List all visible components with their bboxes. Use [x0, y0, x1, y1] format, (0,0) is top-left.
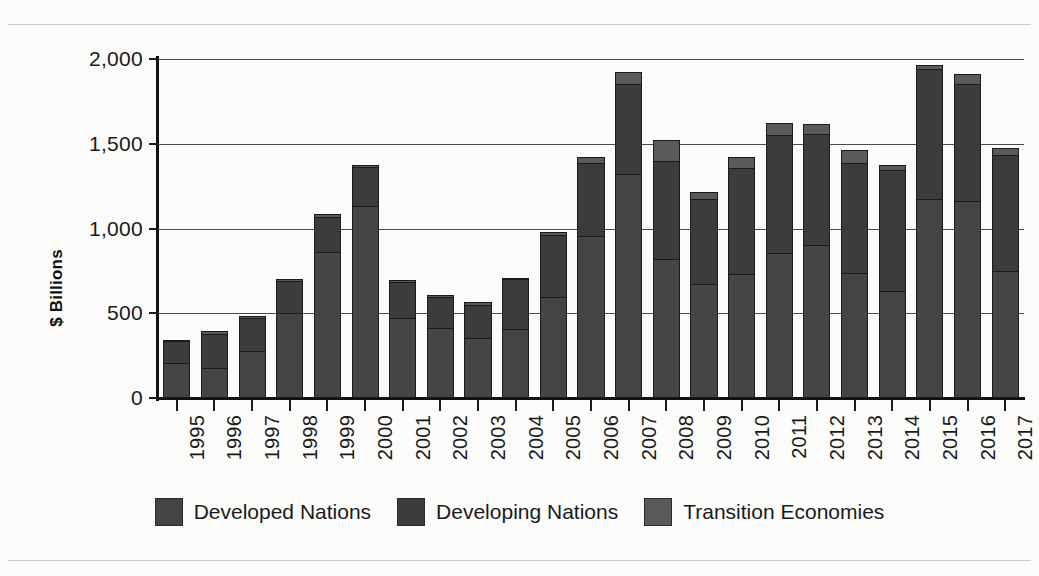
bar-segment	[653, 259, 680, 398]
x-axis-tick-label: 2001	[412, 415, 435, 460]
bar-stack	[954, 74, 981, 398]
bar-stack	[615, 72, 642, 398]
x-axis-tick-mark	[929, 400, 931, 411]
x-axis-tick-label: 2013	[864, 415, 887, 460]
bar-stack	[653, 140, 680, 398]
bar-stack	[879, 165, 906, 398]
legend-swatch	[155, 498, 183, 526]
bar-segment	[803, 245, 830, 398]
x-axis-tick-label: 2011	[788, 415, 811, 459]
x-axis-tick-label: 2008	[675, 415, 698, 460]
y-axis-tick: 0	[131, 386, 158, 410]
y-axis-tick: 2,000	[89, 47, 158, 71]
legend-swatch	[644, 498, 672, 526]
bar-segment	[201, 334, 228, 368]
bar-stack	[766, 123, 793, 398]
bar-segment	[690, 199, 717, 285]
x-axis-tick-mark	[967, 400, 969, 411]
bar-segment	[615, 84, 642, 174]
x-axis-tick-label: 1995	[186, 415, 209, 460]
x-axis-tick-mark	[176, 400, 178, 411]
bar-segment	[728, 157, 755, 168]
x-axis-tick-label: 2000	[374, 415, 397, 460]
bar-segment	[992, 148, 1019, 155]
y-axis-tick-label: 1,000	[89, 217, 149, 241]
bar-segment	[389, 318, 416, 398]
bar-stack	[201, 331, 228, 398]
x-axis-tick-mark	[289, 400, 291, 411]
legend-label: Transition Economies	[683, 500, 884, 524]
x-axis-tick-label: 2016	[977, 415, 1000, 460]
legend-swatch	[397, 498, 425, 526]
y-axis-tick-mark	[149, 312, 158, 314]
legend-item[interactable]: Transition Economies	[644, 498, 884, 526]
x-axis-tick-mark	[854, 400, 856, 411]
bar-segment	[352, 206, 379, 398]
bar-segment	[690, 284, 717, 398]
bar-segment	[314, 217, 341, 253]
bar-segment	[954, 74, 981, 84]
bar-stack	[992, 148, 1019, 398]
x-axis-tick-label: 2017	[1014, 415, 1037, 460]
bar-stack	[841, 150, 868, 398]
legend-item[interactable]: Developed Nations	[155, 498, 371, 526]
x-axis-tick-mark	[439, 400, 441, 411]
x-axis-tick-mark	[213, 400, 215, 411]
bar-stack	[502, 278, 529, 398]
y-axis-tick: 1,500	[89, 132, 158, 156]
x-axis-tick-label: 1998	[299, 415, 322, 460]
bar-stack	[577, 157, 604, 399]
x-axis-tick-label: 2010	[751, 415, 774, 460]
bar-stack	[540, 232, 567, 398]
x-axis-tick-mark	[891, 400, 893, 411]
bar-stack	[916, 65, 943, 398]
legend-item[interactable]: Developing Nations	[397, 498, 618, 526]
bar-segment	[916, 199, 943, 398]
bar-segment	[352, 167, 379, 207]
x-axis-tick-mark	[477, 400, 479, 411]
x-axis-tick-mark	[778, 400, 780, 411]
bar-segment	[841, 163, 868, 273]
x-axis-tick-mark	[326, 400, 328, 411]
x-axis-tick-mark	[1004, 400, 1006, 411]
top-divider-rule	[8, 24, 1031, 25]
bar-segment	[464, 305, 491, 338]
legend-label: Developing Nations	[436, 500, 618, 524]
bottom-divider-rule	[8, 560, 1031, 561]
y-axis-tick-mark	[149, 228, 158, 230]
bar-stack	[239, 316, 266, 398]
bar-stack	[728, 157, 755, 398]
bar-stack	[464, 302, 491, 398]
x-axis-tick-label: 2015	[939, 415, 962, 460]
bar-segment	[239, 318, 266, 350]
bar-segment	[728, 168, 755, 274]
x-axis-tick-mark	[628, 400, 630, 411]
y-axis-tick-mark	[149, 143, 158, 145]
bar-stack	[389, 280, 416, 398]
bar-segment	[803, 124, 830, 133]
x-axis-tick-mark	[364, 400, 366, 411]
bar-stack	[314, 214, 341, 398]
bar-segment	[766, 123, 793, 135]
x-axis-tick-label: 2007	[638, 415, 661, 460]
bar-stack	[276, 279, 303, 398]
x-axis-tick-mark	[703, 400, 705, 411]
bar-segment	[276, 313, 303, 398]
plot-area: 05001,0001,5002,000 19951996199719981999…	[158, 59, 1024, 398]
x-axis-tick-label: 2002	[449, 415, 472, 460]
bar-segment	[803, 134, 830, 246]
bar-stack	[352, 165, 379, 398]
y-axis-tick-mark	[149, 397, 158, 399]
bar-segment	[201, 368, 228, 399]
y-axis-tick-label: 2,000	[89, 47, 149, 71]
x-axis-tick-label: 2014	[901, 415, 924, 460]
x-axis-tick-mark	[515, 400, 517, 411]
bar-segment	[954, 84, 981, 200]
bar-segment	[239, 351, 266, 398]
bar-segment	[577, 157, 604, 164]
legend-label: Developed Nations	[194, 500, 371, 524]
bar-segment	[841, 273, 868, 398]
x-axis-tick-label: 2006	[600, 415, 623, 460]
bar-segment	[577, 236, 604, 398]
bar-segment	[502, 279, 529, 329]
